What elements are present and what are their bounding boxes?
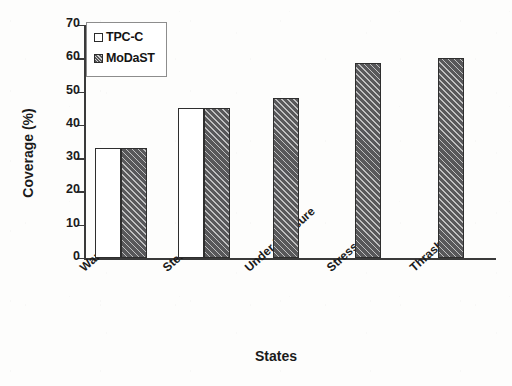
bar-modast-thrashing xyxy=(438,58,464,258)
y-axis-tick-label: 40 xyxy=(66,116,80,130)
bar-modast-warm-up xyxy=(121,148,147,258)
y-axis-tick-label: 70 xyxy=(66,16,80,30)
legend-entry-tpcc: TPC-C xyxy=(94,30,166,44)
y-axis-title: Coverage (%) xyxy=(20,73,36,233)
y-axis-tick-label: 10 xyxy=(66,216,80,230)
legend-label-tpcc: TPC-C xyxy=(106,30,143,44)
bar-modast-stress xyxy=(355,63,381,258)
bar-modast-steady xyxy=(204,108,230,258)
chart-legend: TPC-C MoDaST xyxy=(86,22,167,77)
legend-swatch-tpcc-icon xyxy=(94,33,103,42)
x-axis-title: States xyxy=(0,348,512,364)
bar-tpc-c-steady xyxy=(178,108,204,258)
bar-tpc-c-warm-up xyxy=(95,148,121,258)
legend-swatch-modast-icon xyxy=(94,54,103,63)
legend-label-modast: MoDaST xyxy=(106,51,155,65)
y-axis-tick-label: 50 xyxy=(66,83,80,97)
y-axis-tick-label: 30 xyxy=(66,149,80,163)
bar-chart-figure: Coverage (%) States 010203040506070 Warm… xyxy=(0,0,512,386)
bar-modast-under-pressure xyxy=(273,98,299,258)
y-axis-tick-label: 60 xyxy=(66,49,80,63)
y-axis-tick-label: 20 xyxy=(66,182,80,196)
legend-entry-modast: MoDaST xyxy=(94,51,166,65)
